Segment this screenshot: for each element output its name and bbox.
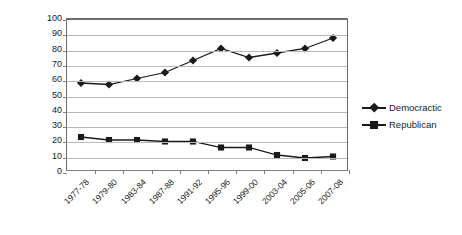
x-axis-tick-label: 1999-00 — [229, 177, 260, 208]
legend-square-marker-icon — [362, 119, 386, 131]
x-axis-tick-label: 1995-96 — [201, 177, 232, 208]
x-axis-tick-label: 1991-92 — [173, 177, 204, 208]
x-axis-tick-label: 1983-84 — [116, 177, 147, 208]
x-axis-tick-label: 1977-78 — [60, 177, 91, 208]
legend-diamond-marker-icon — [362, 102, 386, 114]
x-axis-tick-label: 2003-04 — [257, 177, 288, 208]
legend-label-democractic: Democractic — [386, 102, 442, 113]
chart-container: % Pro- Choice Vote 010203040506070809010… — [0, 0, 462, 235]
x-axis-tick-label: 1979-80 — [88, 177, 119, 208]
x-axis-tick-label: 2007-08 — [314, 177, 345, 208]
legend-label-republican: Republican — [386, 119, 437, 130]
x-axis-tick-label: 2005-06 — [286, 177, 317, 208]
legend-item-republican[interactable]: Republican — [362, 116, 460, 133]
x-axis-tick-label: 1987-88 — [145, 177, 176, 208]
legend-item-democractic[interactable]: Democractic — [362, 99, 460, 116]
chart-legend: Democractic Republican — [362, 99, 460, 133]
